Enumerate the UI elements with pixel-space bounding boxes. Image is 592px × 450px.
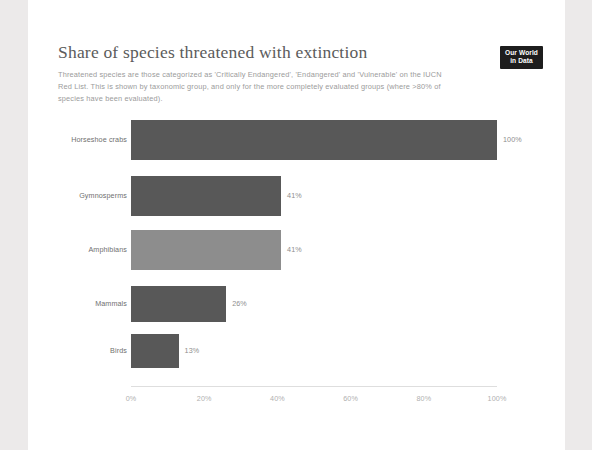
bar-row: Mammals26% [28, 286, 565, 322]
bar[interactable] [131, 230, 281, 270]
bar-category-label: Mammals [0, 299, 127, 308]
x-axis-tick-label: 0% [126, 394, 137, 403]
bar-chart-plot-area: Horseshoe crabs100%Gymnosperms41%Amphibi… [28, 118, 565, 413]
bar-category-label: Gymnosperms [0, 191, 127, 200]
bar-row: Gymnosperms41% [28, 176, 565, 216]
bar[interactable] [131, 120, 497, 160]
bar[interactable] [131, 286, 226, 322]
bar-value-label: 26% [232, 299, 247, 308]
x-axis-tick-label: 100% [488, 394, 507, 403]
x-axis-tick-label: 60% [343, 394, 358, 403]
bar-category-label: Horseshoe crabs [0, 135, 127, 144]
bar-row: Birds13% [28, 334, 565, 368]
page-title: Share of species threatened with extinct… [58, 42, 478, 63]
chart-subtitle: Threatened species are those categorized… [58, 69, 450, 105]
x-axis-tick-label: 80% [416, 394, 431, 403]
bar-category-label: Amphibians [0, 245, 127, 254]
bar-row: Amphibians41% [28, 230, 565, 270]
bar-value-label: 41% [287, 245, 302, 254]
bar-value-label: 100% [503, 135, 522, 144]
x-axis-line [131, 386, 497, 387]
bar-row: Horseshoe crabs100% [28, 120, 565, 160]
bar-category-label: Birds [0, 346, 127, 355]
x-axis-tick-label: 20% [197, 394, 212, 403]
bar[interactable] [131, 176, 281, 216]
bar-value-label: 41% [287, 191, 302, 200]
x-axis-tick-label: 40% [270, 394, 285, 403]
x-axis: 0%20%40%60%80%100% [28, 386, 565, 416]
logo-line-2: in Data [505, 57, 538, 65]
our-world-in-data-logo[interactable]: Our World in Data [500, 46, 543, 69]
chart-header: Share of species threatened with extinct… [58, 42, 478, 105]
bar-value-label: 13% [185, 346, 200, 355]
logo-line-1: Our World [505, 49, 538, 57]
bar[interactable] [131, 334, 179, 368]
chart-card: Share of species threatened with extinct… [28, 0, 565, 450]
